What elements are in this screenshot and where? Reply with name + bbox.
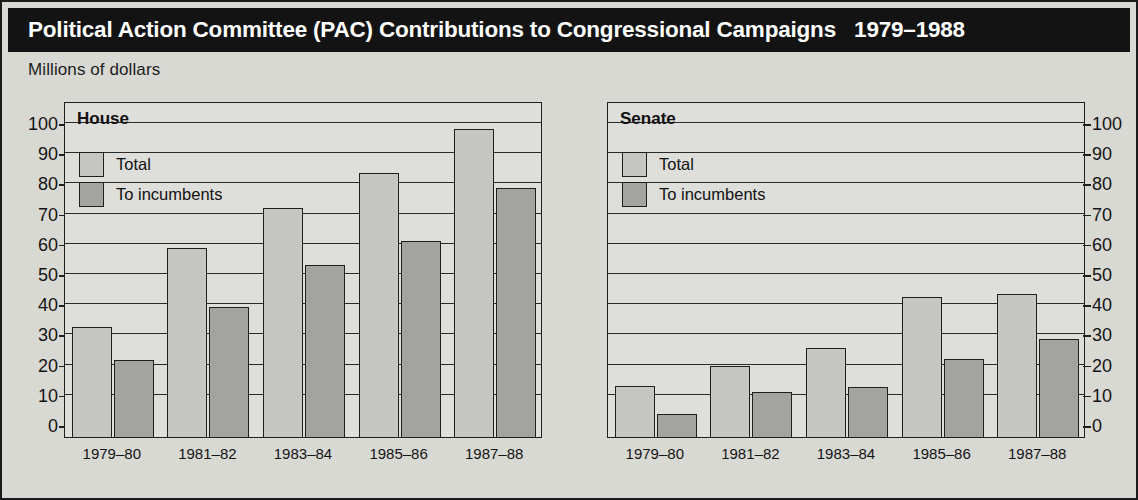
y-axis-tick-mark bbox=[1083, 124, 1091, 126]
legend-label-total: Total bbox=[659, 155, 694, 174]
legend-swatch-incumbents-icon bbox=[622, 182, 647, 207]
y-axis-tick-label: 100 bbox=[12, 115, 58, 133]
bar-total bbox=[997, 294, 1037, 437]
bar-incumbents bbox=[848, 387, 888, 437]
y-axis-tick-label: 30 bbox=[1092, 326, 1138, 344]
x-axis-tick-label: 1979–80 bbox=[64, 445, 160, 462]
legend-swatch-incumbents-icon bbox=[79, 182, 104, 207]
bar-total bbox=[710, 366, 750, 437]
panel-title-house: House bbox=[77, 109, 129, 129]
chart-page: Political Action Committee (PAC) Contrib… bbox=[0, 0, 1138, 500]
y-axis-tick-label: 50 bbox=[1092, 266, 1138, 284]
y-axis-tick-mark bbox=[1083, 305, 1091, 307]
bar-incumbents bbox=[114, 360, 154, 437]
x-axis-tick-label: 1979–80 bbox=[607, 445, 703, 462]
y-axis-tick-mark bbox=[1083, 245, 1091, 247]
x-axis-labels-senate: 1979–801981–821983–841985–861987–88 bbox=[607, 445, 1085, 467]
y-axis-tick-label: 90 bbox=[1092, 145, 1138, 163]
legend-label-incumbents: To incumbents bbox=[659, 185, 765, 204]
y-axis-tick-mark bbox=[1083, 396, 1091, 398]
y-axis-tick-mark bbox=[1083, 275, 1091, 277]
y-axis-tick-label: 80 bbox=[12, 175, 58, 193]
legend-swatch-total-icon bbox=[79, 152, 104, 177]
y-axis-tick-label: 0 bbox=[1092, 417, 1138, 435]
bar-incumbents bbox=[944, 359, 984, 438]
y-axis-tick-label: 80 bbox=[1092, 175, 1138, 193]
bar-incumbents bbox=[752, 392, 792, 437]
y-axis-tick-mark bbox=[1083, 426, 1091, 428]
y-axis-tick-label: 50 bbox=[12, 266, 58, 284]
legend-item-total: Total bbox=[79, 149, 222, 179]
bar-incumbents bbox=[1039, 339, 1079, 437]
y-axis-tick-label: 100 bbox=[1092, 115, 1138, 133]
x-axis-tick-label: 1987–88 bbox=[989, 445, 1085, 462]
legend-item-incumbents: To incumbents bbox=[79, 179, 222, 209]
legend-swatch-total-icon bbox=[622, 152, 647, 177]
x-axis-tick-label: 1987–88 bbox=[446, 445, 542, 462]
bar-incumbents bbox=[496, 188, 536, 437]
x-axis-tick-label: 1983–84 bbox=[255, 445, 351, 462]
x-axis-tick-label: 1985–86 bbox=[894, 445, 990, 462]
plot-area-senate: Senate Total To incumbents bbox=[607, 102, 1085, 438]
plot-area-house: House Total To incumbents bbox=[64, 102, 542, 438]
y-axis-tick-label: 40 bbox=[1092, 296, 1138, 314]
legend-house: Total To incumbents bbox=[79, 149, 222, 209]
title-bar: Political Action Committee (PAC) Contrib… bbox=[8, 8, 1130, 52]
x-axis-tick-label: 1983–84 bbox=[798, 445, 894, 462]
chart-panel-senate: Senate Total To incumbents bbox=[607, 102, 1085, 438]
panel-title-senate: Senate bbox=[620, 109, 676, 129]
bar-incumbents bbox=[305, 265, 345, 437]
x-axis-tick-label: 1985–86 bbox=[351, 445, 447, 462]
bar-total bbox=[806, 348, 846, 437]
y-axis-tick-mark bbox=[1083, 184, 1091, 186]
chart-subtitle: Millions of dollars bbox=[28, 60, 160, 80]
y-axis-tick-mark bbox=[1083, 154, 1091, 156]
y-axis-tick-label: 40 bbox=[12, 296, 58, 314]
y-axis-tick-label: 60 bbox=[12, 236, 58, 254]
y-axis-left: 1009080706050403020100 bbox=[8, 102, 58, 438]
bar-total bbox=[263, 208, 303, 438]
x-axis-labels-house: 1979–801981–821983–841985–861987–88 bbox=[64, 445, 542, 467]
bar-incumbents bbox=[401, 241, 441, 437]
bar-total bbox=[167, 248, 207, 437]
bar-total bbox=[902, 297, 942, 437]
bar-total bbox=[454, 129, 494, 437]
legend-label-total: Total bbox=[116, 155, 151, 174]
bar-total bbox=[72, 327, 112, 437]
legend-item-incumbents: To incumbents bbox=[622, 179, 765, 209]
y-axis-tick-label: 30 bbox=[12, 326, 58, 344]
y-axis-tick-label: 0 bbox=[12, 417, 58, 435]
y-axis-tick-label: 60 bbox=[1092, 236, 1138, 254]
legend-item-total: Total bbox=[622, 149, 765, 179]
y-axis-right: 1009080706050403020100 bbox=[1092, 102, 1138, 438]
y-axis-tick-label: 20 bbox=[12, 357, 58, 375]
y-axis-tick-mark bbox=[1083, 215, 1091, 217]
page-title: Political Action Committee (PAC) Contrib… bbox=[8, 17, 965, 43]
y-axis-tick-label: 20 bbox=[1092, 357, 1138, 375]
legend-label-incumbents: To incumbents bbox=[116, 185, 222, 204]
bar-total bbox=[359, 173, 399, 437]
y-axis-tick-label: 10 bbox=[1092, 387, 1138, 405]
bar-incumbents bbox=[657, 414, 697, 437]
x-axis-tick-label: 1981–82 bbox=[160, 445, 256, 462]
y-axis-tick-mark bbox=[1083, 366, 1091, 368]
chart-panel-house: House Total To incumbents bbox=[64, 102, 542, 438]
bar-total bbox=[615, 386, 655, 437]
y-axis-tick-label: 10 bbox=[12, 387, 58, 405]
y-axis-tick-label: 70 bbox=[12, 206, 58, 224]
bar-incumbents bbox=[209, 307, 249, 437]
x-axis-tick-label: 1981–82 bbox=[703, 445, 799, 462]
y-axis-tick-mark bbox=[1083, 335, 1091, 337]
y-axis-tick-label: 90 bbox=[12, 145, 58, 163]
legend-senate: Total To incumbents bbox=[622, 149, 765, 209]
y-axis-tick-label: 70 bbox=[1092, 206, 1138, 224]
